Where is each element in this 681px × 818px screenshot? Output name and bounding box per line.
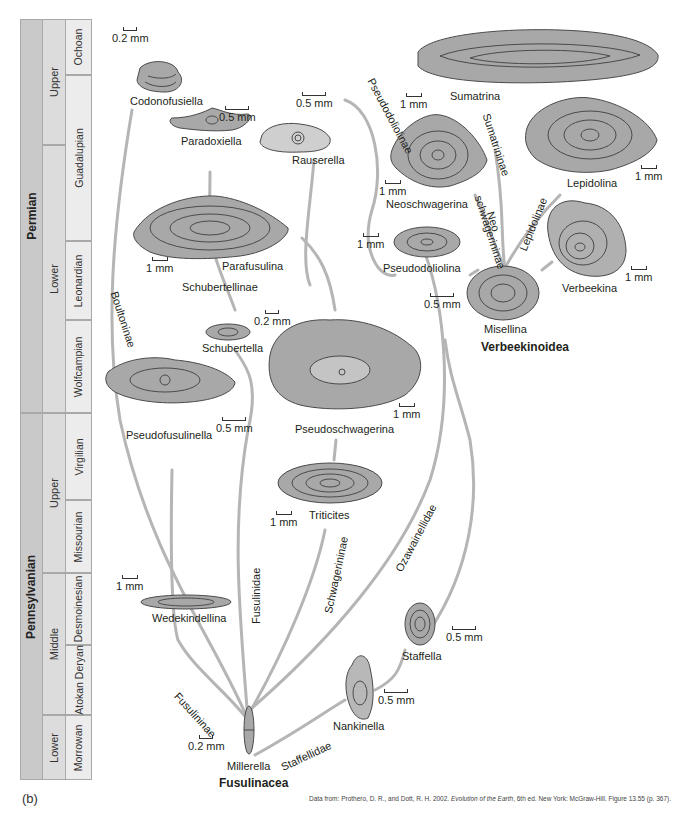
pseudoschwagerina-fossil [269, 320, 421, 409]
scale-bar-triticites: 1 mm [270, 511, 298, 528]
pseudofusulinella-fossil [106, 358, 235, 403]
taxon-label-wedekindellina: Wedekindellina [152, 612, 226, 624]
taxon-label-sumatrina: Sumatrina [450, 90, 500, 102]
taxon-label-rauserella: Rauserella [292, 154, 345, 166]
scale-bar-pseudodoliolina: 1 mm [357, 233, 385, 250]
codonofusiella-fossil [137, 62, 182, 92]
millerella-fossil [244, 706, 254, 754]
taxon-label-pseudodoliolina: Pseudodoliolina [383, 262, 461, 274]
taxon-label-millerella: Millerella [227, 760, 270, 772]
sumatrina-fossil [418, 30, 658, 83]
clade-label-fusulinidae: Fusulinidae [250, 568, 262, 624]
taxon-label-staffella: Staffella [402, 650, 442, 662]
taxon-label-triticites: Triticites [309, 509, 350, 521]
phylogeny-tree [0, 0, 681, 818]
taxon-label-nankinella: Nankinella [333, 720, 384, 732]
scale-bar-staffella: 0.5 mm [446, 626, 483, 643]
triticites-fossil [278, 463, 382, 503]
scale-bar-sumatrina: 1 mm [400, 93, 428, 110]
taxon-label-parafusulina: Parafusulina [222, 260, 283, 272]
group-label-fusulinacea: Fusulinacea [219, 776, 288, 790]
scale-bar-parafusulina: 1 mm [146, 257, 174, 274]
clade-label-schubertellinae: Schubertellinae [182, 281, 258, 293]
taxon-label-schubertella: Schubertella [202, 342, 263, 354]
parafusulina-fossil [134, 196, 289, 259]
scale-bar-lepidolina: 1 mm [635, 165, 663, 182]
rauserella-fossil [260, 123, 330, 152]
wedekindellina-fossil [141, 595, 231, 609]
scale-bar-misellina: 0.5 mm [424, 293, 461, 310]
scale-bar-rauserella: 0.5 mm [296, 92, 333, 109]
taxon-label-pseudofusulinella: Pseudofusulinella [126, 429, 212, 441]
schubertella-fossil [206, 324, 250, 340]
lepidolina-fossil [526, 97, 657, 172]
group-label-verbeekinoidea: Verbeekinoidea [481, 340, 569, 354]
scale-bar-schubertella: 0.2 mm [254, 310, 291, 327]
misellina-fossil [467, 266, 539, 320]
nankinella-fossil [346, 656, 373, 719]
scale-bar-millerella: 0.2 mm [188, 735, 225, 752]
staffella-fossil [405, 603, 435, 645]
taxon-label-verbeekina: Verbeekina [562, 282, 617, 294]
scale-bar-paradoxiella: 0.5 mm [219, 106, 256, 123]
taxon-label-neoschwagerina: Neoschwagerina [386, 198, 468, 210]
taxon-label-paradoxiella: Paradoxiella [181, 135, 242, 147]
taxon-label-lepidolina: Lepidolina [567, 177, 617, 189]
scale-bar-nankinella: 0.5 mm [378, 689, 415, 706]
source-citation: Data from: Prothero, D. R., and Dott, R.… [309, 795, 671, 802]
scale-bar-pseudoschwagerina: 1 mm [393, 403, 421, 420]
verbeekina-fossil [548, 201, 626, 276]
taxon-label-pseudoschwagerina: Pseudoschwagerina [295, 423, 394, 435]
taxon-label-codonofusiella: Codonofusiella [130, 95, 203, 107]
scale-bar-wedekindellina: 1 mm [116, 575, 144, 592]
scale-bar-verbeekina: 1 mm [625, 266, 653, 283]
scale-bar-codonofusiella: 0.2 mm [112, 27, 149, 44]
scale-bar-pseudofusulinella: 0.5 mm [216, 417, 253, 434]
scale-bar-neoschwagerina: 1 mm [379, 180, 407, 197]
pseudodoliolina-fossil [394, 227, 460, 257]
taxon-label-misellina: Misellina [484, 323, 527, 335]
